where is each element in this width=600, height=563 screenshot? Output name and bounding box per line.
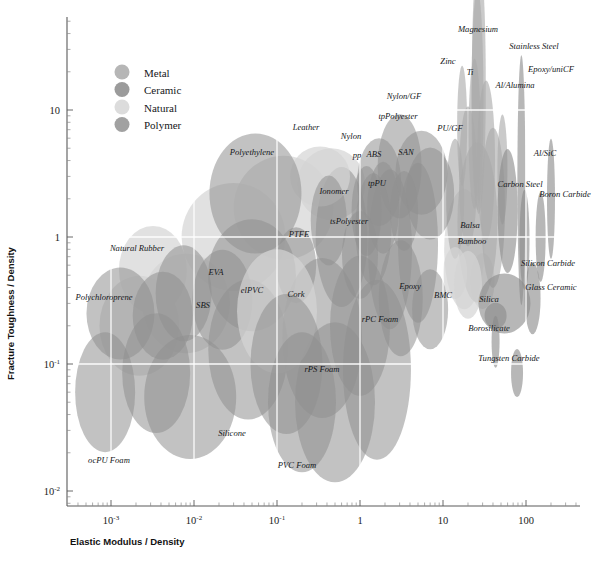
y-tick-label-3: 10 <box>50 105 61 116</box>
bubble-label-polychloroprene: Polychloroprene <box>74 292 132 302</box>
legend-label-metal: Metal <box>144 67 170 79</box>
y-tick-label-1: 10-1 <box>44 358 61 370</box>
bubble-label-cork: Cork <box>287 289 304 299</box>
y-tick-label-2: 1 <box>55 232 60 243</box>
bubble-label-rpc-foam: rPC Foam <box>362 314 399 324</box>
bubble-label-san: SAN <box>398 147 415 157</box>
bubble-label-epoxy-unicf: Epoxy/uniCF <box>527 64 575 74</box>
bubble-label-polyethylene: Polyethylene <box>229 147 275 157</box>
bubble-label-pp: pp <box>352 150 362 160</box>
bubble-label-pvc-foam: PVC Foam <box>277 460 316 470</box>
bubble-label-al-sic: Al/SiC <box>533 148 557 158</box>
bubble-label-tspolyester: tsPolyester <box>330 216 369 226</box>
bubble-label-borosilicate: Borosilicate <box>468 323 510 333</box>
legend-swatch-natural <box>115 100 130 115</box>
bubble-ocpu-foam <box>75 332 135 452</box>
bubble-label-natural-rubber: Natural Rubber <box>109 243 165 253</box>
bubble-label-al-alumina: Al/Alumina <box>494 80 534 90</box>
legend: MetalCeramicNaturalPolymer <box>115 65 182 133</box>
x-axis-title: Elastic Modulus / Density <box>70 536 185 547</box>
bubble-label-zinc: Zinc <box>440 56 455 66</box>
bubble-label-bamboo: Bamboo <box>458 236 487 246</box>
bubble-label-silicone: Silicone <box>218 428 246 438</box>
bubble-label-tungsten-carbide: Tungsten Carbide <box>478 353 540 363</box>
x-tick-label-4: 10 <box>438 515 449 526</box>
bubble-label-tppu: tpPU <box>368 178 387 188</box>
legend-label-ceramic: Ceramic <box>144 84 181 96</box>
bubble-pvc-foam <box>268 332 336 472</box>
bubble-label-tppolyester: tpPolyester <box>378 111 418 121</box>
y-axis-title: Fracture Toughness / Density <box>5 246 16 380</box>
bubble-label-nylon: Nylon <box>340 131 362 141</box>
chart-plot-area: 10-310-210-111010010-210-1110 MagnesiumS… <box>0 0 600 563</box>
x-tick-label-5: 100 <box>518 515 534 526</box>
bubble-label-abs: ABS <box>366 149 382 159</box>
bubble-label-boron-carbide: Boron Carbide <box>539 189 591 199</box>
x-tick-label-2: 10-1 <box>269 514 286 526</box>
bubble-label-eva: EVA <box>207 267 224 277</box>
bubble-label-epoxy: Epoxy <box>398 281 421 291</box>
bubble-label-ocpu-foam: ocPU Foam <box>88 455 130 465</box>
bubble-label-sbs: SBS <box>196 300 211 310</box>
bubble-label-glass-ceramic: Glass Ceramic <box>525 282 577 292</box>
x-tick-label-0: 10-3 <box>103 514 120 526</box>
bubble-label-nylon-gf: Nylon/GF <box>386 91 422 101</box>
legend-label-polymer: Polymer <box>144 119 182 131</box>
bubble-label-magnesium: Magnesium <box>457 24 498 34</box>
x-tick-label-3: 1 <box>357 515 362 526</box>
bubble-label-pu-gf: PU/GF <box>436 123 463 133</box>
bubble-al-sic <box>498 149 518 273</box>
ashby-chart: 10-310-210-111010010-210-1110 MagnesiumS… <box>0 0 600 563</box>
bubble-silicone <box>144 335 236 459</box>
bubble-label-ti: Ti <box>467 67 474 77</box>
legend-label-natural: Natural <box>144 102 177 114</box>
bubble-label-ptfe: PTFE <box>288 229 310 239</box>
bubble-label-ionomer: Ionomer <box>318 186 349 196</box>
legend-swatch-ceramic <box>115 82 130 97</box>
bubble-label-bmc: BMC <box>434 290 452 300</box>
legend-swatch-metal <box>115 65 130 80</box>
bubble-label-silicon-carbide: Silicon Carbide <box>521 258 575 268</box>
bubble-label-rps-foam: rPS Foam <box>304 364 339 374</box>
bubble-label-silica: Silica <box>479 294 499 304</box>
bubble-bamboo <box>454 251 482 319</box>
bubble-label-balsa: Balsa <box>460 220 480 230</box>
x-tick-label-1: 10-2 <box>186 514 203 526</box>
bubble-label-leather: Leather <box>292 122 320 132</box>
bubble-label-elpvc: elPVC <box>241 285 264 295</box>
bubble-label-carbon-steel: Carbon Steel <box>497 179 543 189</box>
legend-swatch-polymer <box>115 117 130 132</box>
y-tick-label-0: 10-2 <box>44 485 61 497</box>
bubble-label-stainless-steel: Stainless Steel <box>509 41 559 51</box>
